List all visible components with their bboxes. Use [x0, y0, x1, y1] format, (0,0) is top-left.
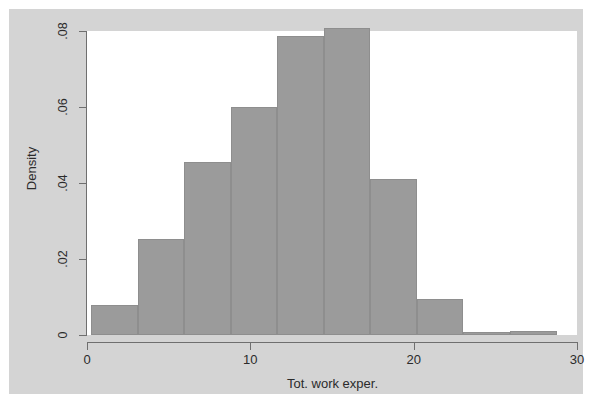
y-axis-tick — [79, 31, 86, 32]
histogram-bar — [184, 162, 231, 335]
y-axis-tick — [79, 183, 86, 184]
y-axis-tick-label: .02 — [56, 245, 70, 273]
y-axis-tick — [79, 259, 86, 260]
x-axis-tick — [577, 343, 578, 350]
y-axis-tick — [79, 107, 86, 108]
x-axis-line — [87, 342, 578, 343]
histogram-bar — [138, 239, 185, 335]
x-axis-title: Tot. work exper. — [87, 376, 578, 391]
x-axis-tick — [250, 343, 251, 350]
histogram-bar — [510, 331, 557, 335]
graph-panel: 0.02.04.06.08 0102030 Density Tot. work … — [9, 9, 583, 394]
y-axis-tick-label: 0 — [56, 321, 70, 349]
histogram-bar — [277, 36, 324, 335]
plot-region — [87, 31, 577, 335]
y-axis-tick-label-wrap: .04 — [49, 163, 77, 203]
histogram-bar — [324, 28, 371, 335]
histogram-bar — [417, 299, 464, 335]
x-axis-tick — [414, 343, 415, 350]
y-axis-tick-label-wrap: .08 — [49, 11, 77, 51]
y-axis-tick-label: .08 — [56, 17, 70, 45]
y-axis-tick-label-wrap: .02 — [49, 239, 77, 279]
y-axis-tick-label: .06 — [56, 93, 70, 121]
x-axis-tick-label: 30 — [557, 352, 592, 367]
histogram-bars — [87, 31, 577, 335]
x-axis-tick-label: 0 — [67, 352, 107, 367]
histogram-bar — [91, 305, 138, 335]
x-axis-tick — [87, 343, 88, 350]
y-axis-line — [86, 31, 87, 336]
histogram-bar — [370, 179, 417, 335]
histogram-figure: 0.02.04.06.08 0102030 Density Tot. work … — [0, 0, 592, 403]
x-axis-tick-label: 10 — [230, 352, 270, 367]
x-axis-tick-label: 20 — [394, 352, 434, 367]
histogram-bar — [231, 107, 278, 335]
y-axis-tick-label-wrap: 0 — [49, 315, 77, 355]
y-axis-title: Density — [24, 109, 39, 229]
y-axis-tick-label: .04 — [56, 169, 70, 197]
y-axis-tick-label-wrap: .06 — [49, 87, 77, 127]
histogram-bar — [463, 332, 510, 335]
y-axis-tick — [79, 335, 86, 336]
